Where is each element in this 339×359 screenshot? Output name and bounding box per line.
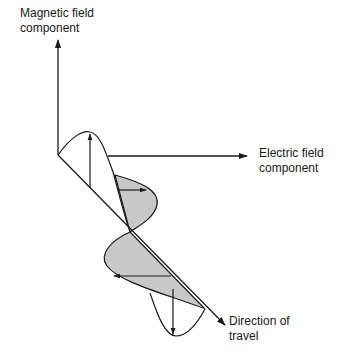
- magnetic-field-label: Magnetic field component: [20, 6, 94, 36]
- travel-axis: [58, 155, 225, 325]
- direction-of-travel-label: Direction of travel: [229, 314, 290, 344]
- em-wave-diagram: [0, 0, 339, 359]
- electric-field-label: Electric field component: [259, 146, 324, 176]
